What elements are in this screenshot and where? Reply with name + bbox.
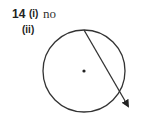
arrow-line — [84, 30, 128, 106]
circle-diagram — [0, 0, 142, 128]
center-dot — [82, 69, 85, 72]
